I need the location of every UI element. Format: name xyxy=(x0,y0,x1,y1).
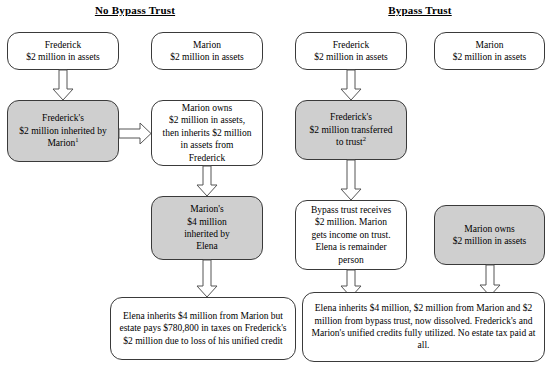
arrow-left-frederick-down xyxy=(52,70,74,101)
node-left-marion-assets-label: Marion $2 million in assets xyxy=(157,39,257,64)
node-left-marion-owns: Marion owns $2 million in assets, then i… xyxy=(151,100,263,166)
node-left-frederick-assets-label: Frederick $2 million in assets xyxy=(13,39,113,64)
node-right-marion-assets-label: Marion $2 million in assets xyxy=(440,39,539,64)
arrow-left-outcome-down xyxy=(196,260,218,298)
node-right-marion-owns-label: Marion owns $2 million in assets xyxy=(440,223,539,248)
arrow-left-marion-down xyxy=(196,166,218,197)
node-left-frederick-inherited: Frederick's$2 million inherited byMarion… xyxy=(7,100,119,162)
node-left-outcome: Elena inherits $4 million from Marion bu… xyxy=(110,297,296,360)
node-right-frederick-assets: Frederick $2 million in assets xyxy=(295,32,407,70)
node-left-frederick-inherited-label: Frederick's$2 million inherited byMarion… xyxy=(13,112,113,149)
footnote-marker-1: 1 xyxy=(75,136,78,143)
arrow-right-frederick-down xyxy=(340,70,362,101)
estate-planning-flow-diagram: No Bypass Trust Bypass Trust Frederick $… xyxy=(0,0,550,372)
node-left-outcome-label: Elena inherits $4 million from Marion bu… xyxy=(116,310,290,347)
node-right-marion-owns: Marion owns $2 million in assets xyxy=(434,205,545,265)
line-3: to trust xyxy=(336,137,363,147)
line-1: Frederick's xyxy=(330,112,372,122)
footnote-marker-2: 2 xyxy=(363,135,366,142)
node-left-marions-four-million: Marion's $4 million inherited by Elena xyxy=(151,196,263,260)
node-right-frederick-transferred-label: Frederick's$2 million transferredto trus… xyxy=(301,111,401,148)
section-title-bypass-trust: Bypass Trust xyxy=(330,4,510,16)
node-right-bypass-trust-receives-label: Bypass trust receives $2 million. Marion… xyxy=(301,204,401,266)
line-2: $2 million transferred xyxy=(310,125,393,135)
node-left-marion-owns-label: Marion owns $2 million in assets, then i… xyxy=(157,102,257,164)
line-2: $2 million inherited by xyxy=(19,126,106,136)
arrow-left-frederick-to-marion xyxy=(119,123,152,145)
node-right-outcome: Elena inherits $4 million, $2 million fr… xyxy=(302,292,545,362)
arrow-right-trust-down xyxy=(340,160,362,201)
node-right-frederick-transferred: Frederick's$2 million transferredto trus… xyxy=(295,100,407,160)
node-right-bypass-trust-receives: Bypass trust receives $2 million. Marion… xyxy=(295,200,407,270)
node-left-frederick-assets: Frederick $2 million in assets xyxy=(7,32,119,70)
node-left-marion-assets: Marion $2 million in assets xyxy=(151,32,263,70)
section-title-no-bypass-trust: No Bypass Trust xyxy=(40,4,230,16)
node-right-outcome-label: Elena inherits $4 million, $2 million fr… xyxy=(308,302,539,352)
line-3: Marion xyxy=(47,138,75,148)
node-right-frederick-assets-label: Frederick $2 million in assets xyxy=(301,39,401,64)
node-right-marion-assets: Marion $2 million in assets xyxy=(434,32,545,70)
node-left-marions-four-million-label: Marion's $4 million inherited by Elena xyxy=(157,203,257,253)
line-1: Frederick's xyxy=(42,113,84,123)
